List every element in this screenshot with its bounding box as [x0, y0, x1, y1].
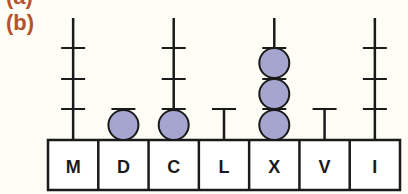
column-symbol-i: I: [372, 157, 377, 177]
column-symbol-l: L: [219, 157, 230, 177]
roman-abacus-diagram: MDCLXVI: [0, 0, 408, 194]
bead: [159, 110, 189, 140]
bead: [108, 110, 138, 140]
bead: [259, 79, 289, 109]
bead: [259, 48, 289, 78]
bead: [259, 110, 289, 140]
column-symbol-x: X: [268, 157, 280, 177]
column-symbol-v: V: [319, 157, 331, 177]
column-symbol-c: C: [167, 157, 180, 177]
column-symbol-d: D: [117, 157, 130, 177]
column-symbol-m: M: [66, 157, 81, 177]
